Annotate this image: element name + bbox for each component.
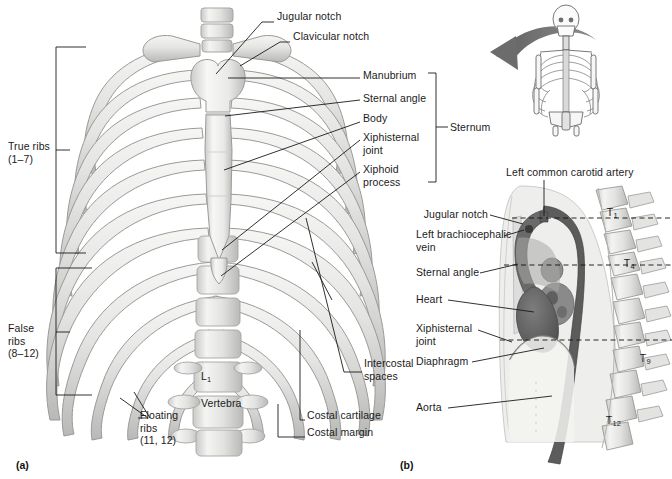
label-costal-cartilage: Costal cartilage (307, 409, 381, 422)
label-body: Body (363, 112, 387, 125)
label-costal-margin: Costal margin (307, 426, 373, 439)
label-manubrium: Manubrium (363, 69, 416, 82)
label-t9: T9 (634, 339, 651, 366)
label-true-ribs: True ribs (1–7) (8, 140, 50, 165)
label-sternal-angle-b: Sternal angle (416, 266, 479, 279)
sagittal-thorax-illustration (499, 186, 672, 464)
label-t1: T1 (601, 193, 618, 220)
label-sternum: Sternum (450, 121, 490, 134)
label-heart: Heart (416, 293, 442, 306)
label-diaphragm: Diaphragm (416, 355, 468, 368)
label-l1-vertebra: L1 Vertebra (195, 357, 242, 409)
t9-subscript: 9 (646, 357, 650, 366)
figure-thoracic-cage: True ribs (1–7) False ribs (8–12) Jugula… (0, 0, 672, 479)
label-xiphisternal-joint-b: Xiphisternal joint (416, 322, 472, 347)
label-vertebra-word: Vertebra (201, 397, 242, 409)
panel-caption-a: (a) (16, 459, 29, 471)
t4-subscript: 4 (630, 262, 634, 271)
label-floating-ribs: Floating ribs (11, 12) (140, 409, 178, 447)
label-xiphoid-process: Xiphoid process (363, 163, 400, 188)
label-t12: T12 (600, 401, 621, 428)
label-sternal-angle: Sternal angle (363, 92, 426, 105)
label-clavicular-notch: Clavicular notch (293, 30, 369, 43)
label-t4: T4 (618, 244, 635, 271)
figure-artwork (0, 0, 672, 479)
label-false-ribs: False ribs (8–12) (8, 322, 39, 360)
label-jugular-notch-b: Jugular notch (416, 208, 488, 221)
label-xiphisternal-joint: Xiphisternal joint (363, 131, 419, 156)
panel-caption-b: (b) (400, 459, 413, 471)
brachiocephalic-vein-dot (525, 225, 533, 233)
skeleton-inset (490, 5, 599, 136)
label-jugular-notch: Jugular notch (277, 10, 341, 23)
t1-subscript: 1 (613, 211, 617, 220)
label-left-brachiocephalic-vein: Left brachiocephalic vein (416, 228, 511, 253)
label-l1-subscript: 1 (207, 375, 211, 384)
t12-subscript: 12 (612, 419, 621, 428)
label-left-common-carotid-artery: Left common carotid artery (506, 166, 633, 179)
label-aorta: Aorta (416, 401, 442, 414)
label-intercostal-spaces: Intercostal spaces (364, 357, 414, 382)
